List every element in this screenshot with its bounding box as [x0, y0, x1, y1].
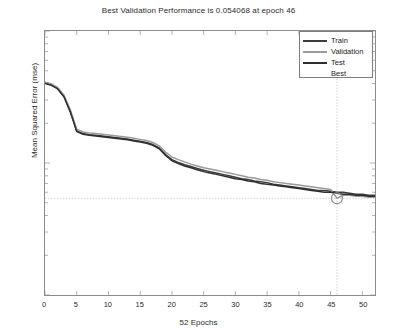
x-tick-label-4: 20	[157, 300, 187, 309]
chart-title: Best Validation Performance is 0.054068 …	[0, 6, 397, 15]
x-tick-label-10: 50	[348, 300, 378, 309]
x-tick-label-3: 15	[125, 300, 155, 309]
x-tick-label-0: 0	[29, 300, 59, 309]
x-tick-label-2: 10	[93, 300, 123, 309]
x-tick-label-6: 30	[221, 300, 251, 309]
legend-label-train: Train	[331, 35, 348, 46]
x-tick-label-8: 40	[284, 300, 314, 309]
y-axis-label: Mean Squared Error (mse)	[30, 31, 39, 191]
legend-label-best: Best	[331, 68, 346, 79]
legend-label-validation: Validation	[331, 46, 363, 57]
legend-label-test: Test	[331, 57, 345, 68]
legend-item-train[interactable]: Train	[300, 35, 372, 46]
legend-swatch-train	[303, 40, 327, 42]
legend-item-best[interactable]: Best	[300, 68, 372, 79]
x-tick-label-5: 25	[189, 300, 219, 309]
x-tick-label-7: 35	[252, 300, 282, 309]
series-line-validation	[45, 82, 375, 198]
legend-item-test[interactable]: Test	[300, 57, 372, 68]
legend-swatch-validation	[303, 51, 327, 53]
figure: Best Validation Performance is 0.054068 …	[0, 0, 397, 336]
legend-item-validation[interactable]: Validation	[300, 46, 372, 57]
chart-legend: Train Validation Test Best	[299, 31, 373, 78]
x-tick-label-9: 45	[316, 300, 346, 309]
series-line-train	[45, 83, 375, 195]
x-axis-label: 52 Epochs	[0, 318, 397, 327]
series-line-test	[45, 84, 375, 197]
x-tick-label-1: 5	[61, 300, 91, 309]
legend-swatch-test	[303, 62, 327, 64]
